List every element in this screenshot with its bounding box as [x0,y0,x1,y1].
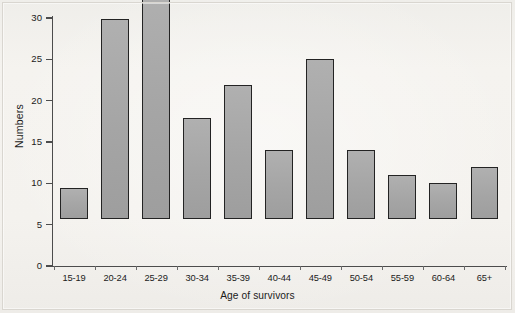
x-axis-tick [177,266,178,270]
histogram-chart: Numbers 051015202530 15-1920-2425-2930-3… [0,0,515,313]
y-axis-tick-label: 0 [16,260,42,271]
x-axis-tick-label: 20-24 [103,273,126,283]
x-axis-tick-label: 50-54 [350,273,373,283]
x-axis-title: Age of survivors [0,290,515,301]
x-axis-tick [218,266,219,270]
bar [388,175,416,219]
x-axis-tick-label: 45-49 [309,273,332,283]
bar [60,188,88,219]
bar [101,19,129,219]
y-axis-tick-label: 25 [16,53,42,64]
bar [224,85,252,219]
x-axis-tick [136,266,137,270]
bar [265,150,293,219]
x-axis-tick-label: 60-64 [432,273,455,283]
x-axis-tick [464,266,465,270]
bar [306,59,334,219]
x-axis-tick [382,266,383,270]
y-axis-tick-label: 20 [16,95,42,106]
x-axis-tick [341,266,342,270]
bar-series [52,0,507,266]
x-axis-tick-label: 30-34 [186,273,209,283]
x-axis-tick-label: 35-39 [227,273,250,283]
x-axis-tick [259,266,260,270]
x-axis-tick-label: 15-19 [62,273,85,283]
x-axis-tick-label: 65+ [477,273,492,283]
x-axis-tick [300,266,301,270]
x-axis-tick-label: 25-29 [144,273,167,283]
bar [183,118,211,219]
y-axis-tick-label: 5 [16,219,42,230]
y-axis-tick-label: 30 [16,12,42,23]
bar [347,150,375,219]
y-axis-tick-label: 15 [16,136,42,147]
x-axis-tick-label: 55-59 [391,273,414,283]
x-axis-tick [423,266,424,270]
bar [142,0,170,219]
x-axis-tick [95,266,96,270]
bar [429,183,457,219]
y-axis-tick-label: 10 [16,177,42,188]
x-axis-tick-label: 40-44 [268,273,291,283]
x-axis-tick [505,266,506,270]
x-axis-tick [54,266,55,270]
bar [471,167,499,219]
